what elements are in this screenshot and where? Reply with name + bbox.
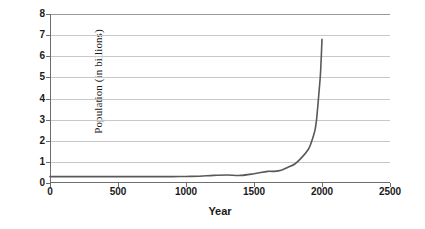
x-tick-label: 2500: [370, 187, 410, 197]
y-tick-label: 7: [31, 30, 45, 40]
data-series-line: [50, 14, 390, 183]
y-tick-label: 3: [31, 115, 45, 125]
y-tick-label: 5: [31, 72, 45, 82]
population-line-chart: Population (in billions) 012345678 05001…: [0, 0, 425, 229]
x-tick-label: 0: [30, 187, 70, 197]
y-tick-label: 2: [31, 136, 45, 146]
x-tick-label: 2000: [302, 187, 342, 197]
x-tick-label: 1000: [166, 187, 206, 197]
x-tick-label: 500: [98, 187, 138, 197]
y-tick-label: 1: [31, 157, 45, 167]
plot-area: [50, 14, 390, 183]
y-tick-label: 4: [31, 94, 45, 104]
y-tick-label: 6: [31, 51, 45, 61]
y-tick-label: 8: [31, 9, 45, 19]
x-tick-label: 1500: [234, 187, 274, 197]
x-axis-title: Year: [50, 205, 390, 217]
